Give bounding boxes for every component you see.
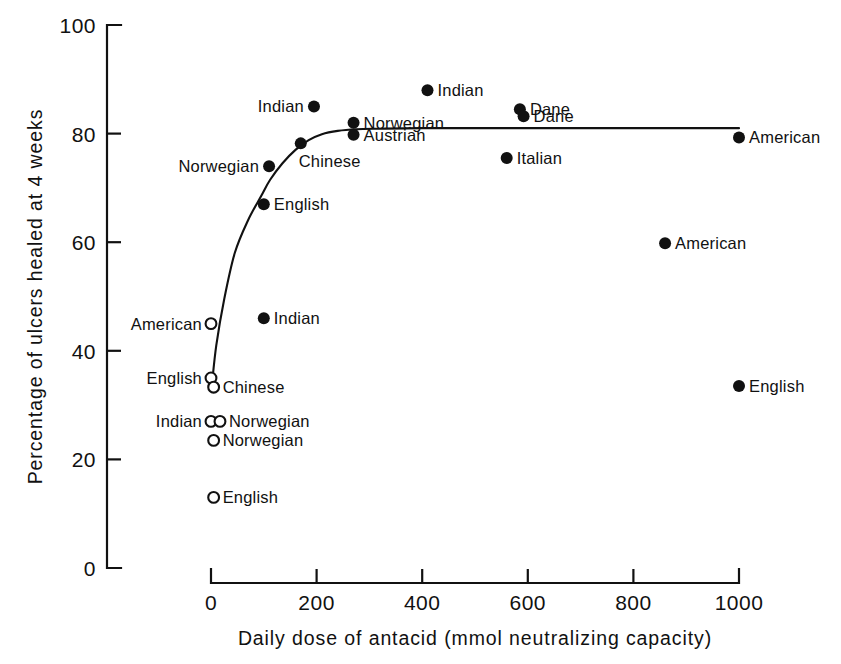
data-point-label: English <box>223 488 279 506</box>
data-point-open <box>215 416 226 427</box>
data-point-label: American <box>675 234 746 252</box>
x-axis-line <box>211 569 739 583</box>
data-point-filled <box>518 110 530 122</box>
scatter-plot: 02040608010002004006008001000Daily dose … <box>0 0 841 664</box>
data-point-filled <box>421 84 433 96</box>
data-point-label: Indian <box>258 97 304 115</box>
x-axis-tick-label: 800 <box>615 591 652 614</box>
data-point-open <box>206 318 217 329</box>
data-point-filled <box>295 137 307 149</box>
data-point-label: Indian <box>437 81 483 99</box>
x-axis-tick-label: 0 <box>205 591 217 614</box>
y-axis-title: Percentage of ulcers healed at 4 weeks <box>24 109 46 485</box>
data-point-label: American <box>749 128 820 146</box>
data-point-label: Austrian <box>364 126 426 144</box>
data-point-label: Chinese <box>299 152 361 170</box>
data-point-label: Dane <box>534 107 574 125</box>
x-axis-tick-label: 600 <box>510 591 547 614</box>
x-axis-tick-label: 400 <box>404 591 441 614</box>
data-point-label: Chinese <box>223 378 285 396</box>
y-axis-tick-label: 80 <box>72 123 96 146</box>
data-point-label: Indian <box>274 309 320 327</box>
data-point-label: English <box>749 377 805 395</box>
data-point-filled <box>348 129 360 141</box>
data-point-open <box>208 435 219 446</box>
data-point-label: Norwegian <box>229 412 310 430</box>
data-point-filled <box>733 380 745 392</box>
data-point-label: English <box>274 195 330 213</box>
fitted-curve <box>212 128 739 383</box>
y-axis-tick-label: 60 <box>72 231 96 254</box>
data-point-label: Norwegian <box>223 431 304 449</box>
data-point-filled <box>258 198 270 210</box>
y-axis-tick-label: 100 <box>59 14 96 37</box>
data-point-filled <box>733 131 745 143</box>
x-axis-tick-label: 200 <box>298 591 335 614</box>
y-axis-tick-label: 0 <box>84 557 96 580</box>
figure-container: 02040608010002004006008001000Daily dose … <box>0 0 841 664</box>
data-point-label: American <box>131 315 202 333</box>
data-point-open <box>208 382 219 393</box>
data-point-filled <box>348 117 360 129</box>
data-point-label: Norwegian <box>178 157 259 175</box>
y-axis-tick-label: 20 <box>72 448 96 471</box>
data-point-filled <box>258 312 270 324</box>
data-point-label: Italian <box>517 149 562 167</box>
y-axis-line <box>107 25 121 568</box>
data-point-label: English <box>146 369 202 387</box>
data-point-filled <box>308 100 320 112</box>
y-axis-tick-label: 40 <box>72 340 96 363</box>
x-axis-tick-label: 1000 <box>715 591 764 614</box>
x-axis-title: Daily dose of antacid (mmol neutralizing… <box>238 627 712 649</box>
data-point-filled <box>501 152 513 164</box>
data-point-filled <box>659 237 671 249</box>
data-point-label: Indian <box>156 412 202 430</box>
data-point-open <box>208 492 219 503</box>
data-point-filled <box>263 160 275 172</box>
